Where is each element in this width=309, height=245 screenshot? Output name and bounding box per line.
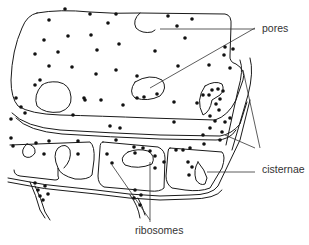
leader-lines: [112, 28, 260, 222]
ribosomes-dots: [9, 7, 235, 207]
label-ribosomes: ribosomes: [135, 224, 183, 236]
er-diagram: pores cisternae ribosomes: [0, 0, 309, 245]
label-pores: pores: [262, 22, 288, 34]
label-cisternae: cisternae: [262, 163, 305, 175]
